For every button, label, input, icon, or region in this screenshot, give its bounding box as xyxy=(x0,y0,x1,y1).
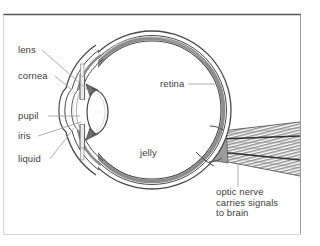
label-lens: lens xyxy=(18,45,36,56)
label-iris: iris xyxy=(18,131,31,142)
label-liquid: liquid xyxy=(18,154,41,165)
label-jelly: jelly xyxy=(140,148,157,159)
label-pupil: pupil xyxy=(18,111,39,122)
label-cornea: cornea xyxy=(18,71,48,82)
figure-canvas: lens cornea pupil iris liquid retina jel… xyxy=(0,0,320,246)
label-retina: retina xyxy=(160,79,184,90)
label-optic-nerve: optic nerve carries signals to brain xyxy=(216,187,278,219)
